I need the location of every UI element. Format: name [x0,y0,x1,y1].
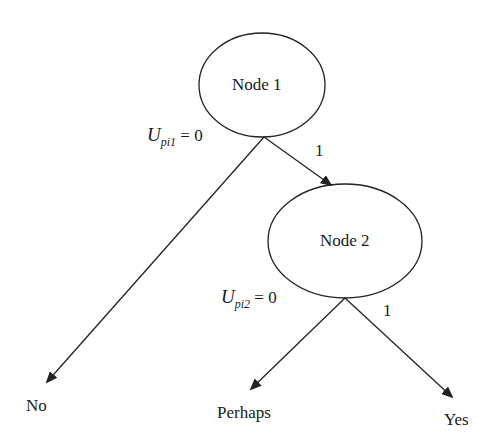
edge-label-upi1: Upi1 = 0 [147,125,203,148]
edge-label-upi2: Upi2 = 0 [221,287,277,310]
edge-label-node1-one: 1 [315,142,324,159]
leaf-no: No [26,397,47,414]
edge-label-sub: pi2 [235,297,250,311]
edge-label-var: U [221,286,235,307]
node-1-label: Node 1 [232,76,282,93]
leaf-perhaps: Perhaps [217,404,271,421]
edge-node2-yes [345,298,452,397]
edge-label-var: U [147,124,161,145]
leaf-yes: Yes [444,411,469,428]
edge-label-rest: = 0 [250,288,277,307]
edge-node1-no [47,137,264,382]
edge-label-rest: = 0 [176,126,203,145]
edge-node2-perhaps [251,298,345,389]
tree-diagram-canvas [0,0,493,439]
node-2-label: Node 2 [320,232,370,249]
edge-label-sub: pi1 [161,135,176,149]
edge-label-node2-one: 1 [383,302,392,319]
